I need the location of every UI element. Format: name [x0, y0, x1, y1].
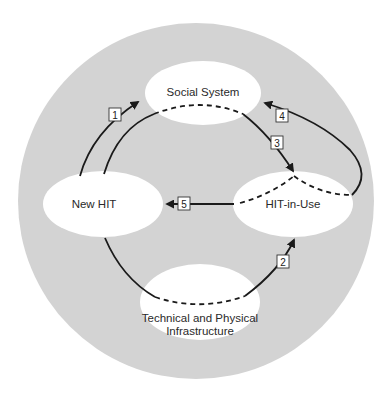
badge-1: 1	[109, 108, 121, 121]
svg-text:2: 2	[280, 257, 286, 268]
svg-text:5: 5	[181, 199, 187, 210]
badge-2: 2	[277, 255, 289, 268]
label-technical-line1: Technical and Physical	[142, 312, 258, 324]
badge-5: 5	[178, 197, 190, 210]
label-technical-line2: Infrastructure	[166, 325, 234, 337]
label-hit-in-use: HIT-in-Use	[266, 198, 321, 210]
badge-4: 4	[276, 109, 288, 122]
svg-text:4: 4	[279, 111, 285, 122]
svg-text:1: 1	[112, 110, 118, 121]
hit-sociotechnical-diagram: 1 2 3 4 5 Social System New HIT HIT-in-U…	[0, 0, 390, 402]
label-social-system: Social System	[167, 86, 240, 98]
badge-3: 3	[271, 136, 283, 149]
svg-text:3: 3	[274, 138, 280, 149]
label-new-hit: New HIT	[72, 198, 117, 210]
